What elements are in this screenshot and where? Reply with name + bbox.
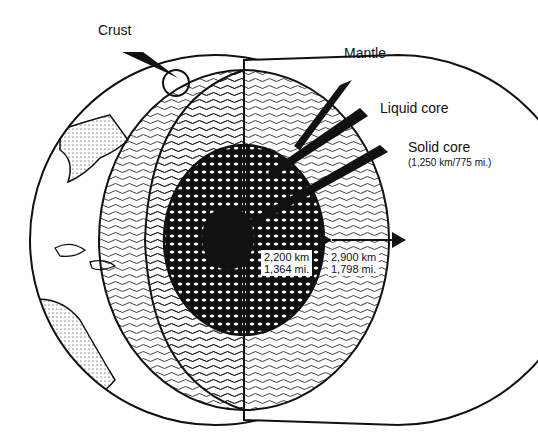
mantle-label: Mantle <box>344 45 386 61</box>
solid-core-size: (1,250 km/775 mi.) <box>408 157 491 168</box>
mantle-thickness-label: 2,900 km 1,798 mi. <box>328 250 379 276</box>
liquid-core-label: Liquid core <box>380 100 449 116</box>
solid-core-label: Solid core <box>408 139 470 155</box>
mantle-thickness-mi: 1,798 mi. <box>331 263 376 275</box>
crust-label: Crust <box>98 22 131 38</box>
core-radius-mi: 1,364 mi. <box>264 263 309 275</box>
mantle-thickness-km: 2,900 km <box>331 251 376 263</box>
core-radius-km: 2,200 km <box>264 251 309 263</box>
core-radius-label: 2,200 km 1,364 mi. <box>261 250 312 276</box>
earth-cross-section <box>0 0 538 447</box>
